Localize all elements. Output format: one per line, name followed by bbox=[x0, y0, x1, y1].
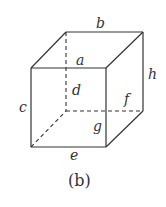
label-e: e bbox=[70, 147, 78, 163]
edge-bottom-right-diagonal bbox=[106, 111, 143, 147]
label-b: b bbox=[96, 15, 105, 31]
label-d: d bbox=[72, 82, 81, 98]
edge-top-left-diagonal bbox=[31, 32, 66, 68]
label-f: f bbox=[123, 91, 132, 107]
figure-caption: (b) bbox=[68, 171, 91, 190]
label-c: c bbox=[19, 99, 27, 115]
label-g: g bbox=[93, 118, 102, 134]
hidden-edges bbox=[31, 32, 143, 147]
cube-diagram: b a h d c f g e (b) bbox=[0, 0, 166, 207]
edge-top-right-diagonal bbox=[106, 32, 143, 68]
label-h: h bbox=[148, 66, 157, 82]
label-a: a bbox=[76, 52, 84, 68]
edge-bottom-left-diagonal-hidden bbox=[31, 111, 66, 147]
